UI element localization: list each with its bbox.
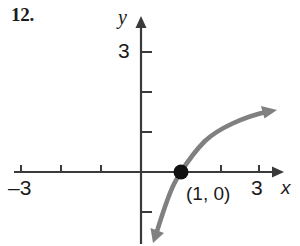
- x-axis-arrowhead: [272, 167, 284, 178]
- x-axis-label: x: [281, 177, 291, 199]
- y-tick-label-3: 3: [118, 39, 130, 63]
- y-axis-arrowhead: [136, 16, 147, 28]
- coordinate-plot: [0, 0, 300, 246]
- curve-arrowhead-top: [261, 106, 277, 119]
- log-curve: [156, 112, 267, 236]
- x-tick-label-3: 3: [251, 176, 263, 200]
- point-marker: [174, 165, 189, 180]
- figure-container: 12. y x 3 –3 3 (1, 0): [0, 0, 300, 246]
- point-coordinate-label: (1, 0): [186, 183, 230, 205]
- y-axis-label: y: [118, 6, 127, 29]
- x-tick-label-neg3: –3: [8, 176, 31, 200]
